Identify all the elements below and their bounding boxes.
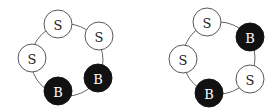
node-label: B [204, 87, 214, 102]
node-label: S [95, 30, 104, 45]
node-label: B [53, 85, 63, 100]
right-ring: SBSSB [169, 8, 264, 107]
node-label: S [28, 52, 37, 67]
node-b: B [44, 77, 72, 105]
node-label: B [245, 31, 255, 46]
node-label: S [203, 16, 212, 31]
node-label: B [93, 72, 103, 87]
node-s: S [169, 45, 197, 73]
node-b: B [84, 64, 112, 92]
node-s: S [85, 22, 113, 50]
node-b: B [195, 79, 223, 107]
node-s: S [236, 65, 264, 93]
node-s: S [193, 8, 221, 36]
left-ring: SSSBB [18, 10, 113, 105]
node-label: S [246, 73, 255, 88]
diagram-canvas: SSSBBSBSSB [0, 0, 280, 112]
node-b: B [236, 23, 264, 51]
node-label: S [54, 18, 63, 33]
node-s: S [18, 44, 46, 72]
node-label: S [179, 53, 188, 68]
node-s: S [44, 10, 72, 38]
